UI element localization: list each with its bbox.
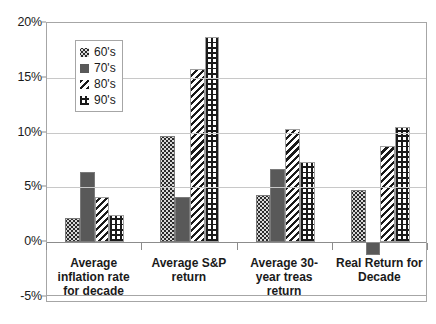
gridline xyxy=(47,133,426,134)
x-axis-tick-mark xyxy=(237,243,238,250)
legend-item-label: 60's xyxy=(94,46,116,58)
bar xyxy=(270,169,285,242)
legend-swatch-icon xyxy=(80,80,89,89)
x-axis-tick-mark xyxy=(46,243,47,250)
legend-item-label: 70's xyxy=(94,62,116,74)
bar xyxy=(285,129,300,242)
x-axis-category-line: return xyxy=(237,284,332,298)
gridline xyxy=(47,187,426,188)
x-axis-category-line: Average xyxy=(46,256,141,270)
bar xyxy=(300,162,315,242)
x-axis-categories: Averageinflation ratefor decadeAverage S… xyxy=(46,250,427,306)
x-axis-category-line: for decade xyxy=(46,284,141,298)
x-axis-category-line: Average 30- xyxy=(237,256,332,270)
bar xyxy=(109,215,124,242)
bar xyxy=(160,136,175,242)
bar xyxy=(256,195,271,242)
x-axis-category-line: Decade xyxy=(332,270,427,284)
legend-swatch-icon xyxy=(80,96,89,105)
x-axis-category-label: Real Return forDecade xyxy=(332,250,427,306)
legend-item: 90's xyxy=(80,92,116,108)
legend-swatch-icon xyxy=(80,48,89,57)
bar xyxy=(190,69,205,242)
bar xyxy=(175,197,190,242)
x-axis-category-label: Average S&Preturn xyxy=(141,250,236,306)
x-axis-tick-mark xyxy=(427,243,428,250)
chart-legend: 60's70's80's90's xyxy=(75,40,123,112)
y-axis-tick-label: 20% xyxy=(0,15,42,29)
y-axis-tick-label: 15% xyxy=(0,70,42,84)
x-axis-tick-mark xyxy=(141,243,142,250)
legend-item: 60's xyxy=(80,44,116,60)
legend-swatch-icon xyxy=(80,64,89,73)
bar xyxy=(205,37,220,242)
bar-chart: 20%15%10%5%0%-5% 60's70's80's90's Averag… xyxy=(0,0,436,324)
y-axis-tick-label: 5% xyxy=(0,179,42,193)
y-axis-tick-label: 10% xyxy=(0,125,42,139)
x-axis-category-line: inflation rate xyxy=(46,270,141,284)
y-axis: 20%15%10%5%0%-5% xyxy=(0,0,42,324)
x-axis-category-line: year treas xyxy=(237,270,332,284)
legend-item-label: 90's xyxy=(94,94,116,106)
legend-item: 80's xyxy=(80,76,116,92)
x-axis-category-line: Average S&P xyxy=(141,256,236,270)
bar xyxy=(395,127,410,242)
legend-item: 70's xyxy=(80,60,116,76)
x-axis-category-line: Real Return for xyxy=(332,256,427,270)
bar xyxy=(65,218,80,242)
bar xyxy=(380,146,395,242)
x-axis-category-label: Averageinflation ratefor decade xyxy=(46,250,141,306)
x-axis-category-line: return xyxy=(141,270,236,284)
x-axis-tick-mark xyxy=(332,243,333,250)
legend-item-label: 80's xyxy=(94,78,116,90)
bar xyxy=(95,197,110,242)
x-axis-category-label: Average 30-year treasreturn xyxy=(237,250,332,306)
y-axis-tick-label: 0% xyxy=(0,234,42,248)
y-axis-tick-label: -5% xyxy=(0,289,42,303)
bar xyxy=(80,172,95,242)
bar xyxy=(351,190,366,243)
